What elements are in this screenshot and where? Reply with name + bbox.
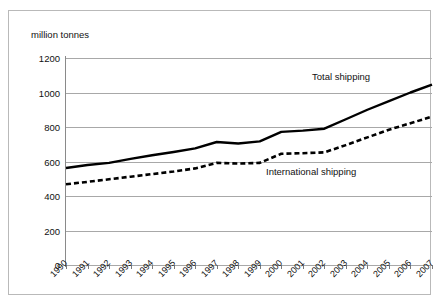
x-axis-tick-labels: 1990199119921993199419951996199719981999… [66,272,439,306]
y-axis-tick-label: 1000 [39,87,60,98]
series-label-international-shipping: International shipping [266,166,356,177]
series-canvas [66,58,432,265]
y-axis-unit-label: million tonnes [31,29,89,40]
series-line-total-shipping [66,85,432,168]
y-axis-tick-labels: 120010008006004002000 [21,58,60,265]
y-axis-tick-label: 600 [44,156,60,167]
chart-figure: million tonnes 120010008006004002000 199… [0,0,439,306]
series-line-international-shipping [66,117,432,185]
chart-frame: million tonnes 120010008006004002000 199… [8,10,431,295]
series-label-total-shipping: Total shipping [312,71,370,82]
y-axis-tick-label: 800 [44,122,60,133]
y-axis-tick-label: 1200 [39,53,60,64]
y-axis-tick-label: 400 [44,191,60,202]
plot-area [66,58,432,265]
y-axis-tick-label: 200 [44,225,60,236]
